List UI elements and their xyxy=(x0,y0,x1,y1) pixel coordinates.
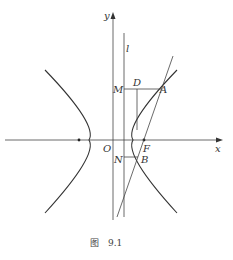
label-point-d: D xyxy=(132,77,141,88)
label-focus-f: F xyxy=(142,143,151,154)
label-origin: O xyxy=(103,143,111,154)
figure-caption-prefix: 图 xyxy=(90,238,99,248)
label-point-n: N xyxy=(113,154,124,165)
label-point-m: M xyxy=(112,84,124,95)
focal-chord-line xyxy=(117,56,173,217)
label-point-a: A xyxy=(159,84,167,95)
hyperbola-left-branch xyxy=(45,70,90,213)
label-point-b: B xyxy=(140,154,148,165)
hyperbola-right-branch xyxy=(132,70,177,213)
label-x-axis: x xyxy=(215,143,221,154)
label-line-l: l xyxy=(126,43,129,54)
hyperbola-diagram: y x l O F A B D M N 图 9.1 xyxy=(0,0,233,260)
y-axis-arrow-icon xyxy=(111,12,116,19)
label-y-axis: y xyxy=(103,10,110,21)
figure-caption-number: 9.1 xyxy=(108,238,122,248)
x-axis-arrow-icon xyxy=(216,138,223,143)
left-focus-point xyxy=(78,139,81,142)
